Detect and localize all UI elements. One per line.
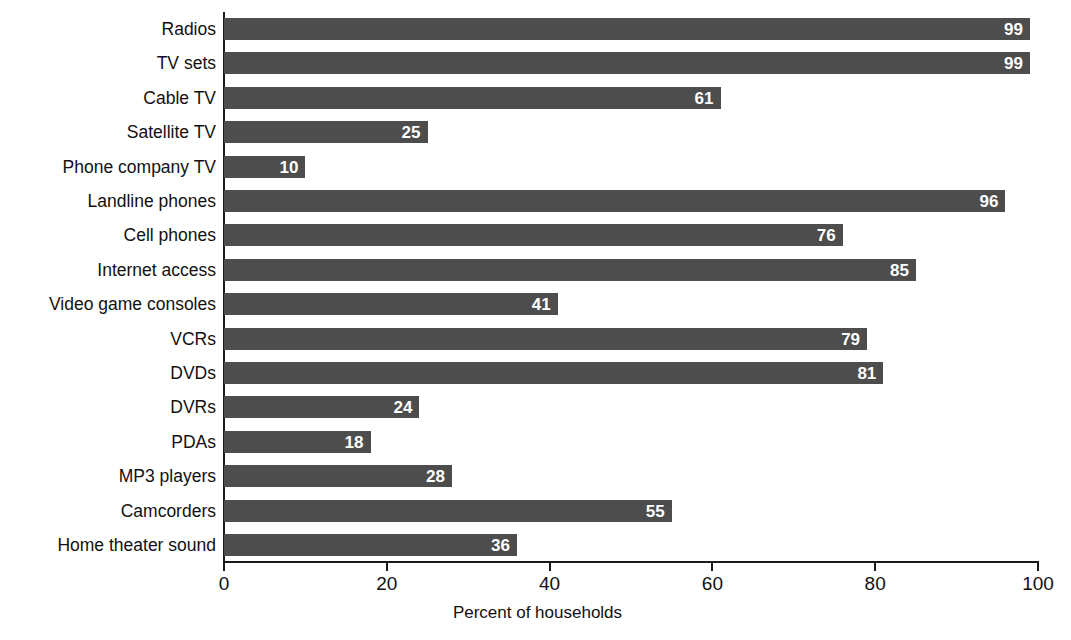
x-tick-mark (549, 561, 551, 571)
bar-value-label: 10 (279, 158, 298, 175)
bar-row: Video game consoles41 (224, 287, 1038, 321)
bar[interactable]: 99 (224, 52, 1030, 74)
category-label: Cell phones (0, 224, 216, 246)
category-label: Satellite TV (0, 121, 216, 143)
bar[interactable]: 55 (224, 500, 672, 522)
bar-row: DVDs81 (224, 356, 1038, 390)
bar-value-label: 81 (857, 365, 876, 382)
bar-value-label: 28 (426, 468, 445, 485)
bar[interactable]: 36 (224, 534, 517, 556)
bar-value-label: 85 (890, 261, 909, 278)
bar-value-label: 99 (1004, 55, 1023, 72)
plot-area: Radios99TV sets99Cable TV61Satellite TV2… (224, 12, 1038, 562)
bar-value-label: 41 (532, 296, 551, 313)
bar-row: Landline phones96 (224, 184, 1038, 218)
bar-value-label: 76 (817, 227, 836, 244)
category-label: Video game consoles (0, 293, 216, 315)
category-label: Landline phones (0, 190, 216, 212)
bar-value-label: 96 (980, 193, 999, 210)
x-tick-mark (1037, 561, 1039, 571)
bar[interactable]: 41 (224, 293, 558, 315)
x-axis-title-text: Percent of households (453, 603, 622, 623)
bar-row: Home theater sound36 (224, 528, 1038, 562)
bar-row: Cell phones76 (224, 218, 1038, 252)
category-label: Camcorders (0, 500, 216, 522)
bar-value-label: 61 (695, 89, 714, 106)
bar[interactable]: 28 (224, 465, 452, 487)
bar[interactable]: 85 (224, 259, 916, 281)
bar-value-label: 25 (402, 124, 421, 141)
category-label: DVDs (0, 362, 216, 384)
bar-row: DVRs24 (224, 390, 1038, 424)
category-label: Cable TV (0, 87, 216, 109)
bar-value-label: 79 (841, 330, 860, 347)
x-tick-mark (711, 561, 713, 571)
x-tick-label: 100 (1022, 573, 1054, 595)
category-label: Phone company TV (0, 156, 216, 178)
category-label: PDAs (0, 431, 216, 453)
bar[interactable]: 79 (224, 328, 867, 350)
x-tick-mark (386, 561, 388, 571)
bar-value-label: 24 (393, 399, 412, 416)
bar-value-label: 18 (345, 433, 364, 450)
category-label: VCRs (0, 328, 216, 350)
bar[interactable]: 25 (224, 121, 428, 143)
bar[interactable]: 76 (224, 224, 843, 246)
bar-row: Satellite TV25 (224, 115, 1038, 149)
x-tick-label: 20 (376, 573, 397, 595)
bar[interactable]: 10 (224, 156, 305, 178)
category-label: Internet access (0, 259, 216, 281)
bar-row: PDAs18 (224, 425, 1038, 459)
bar-row: Cable TV61 (224, 81, 1038, 115)
x-tick-label: 60 (702, 573, 723, 595)
category-label: MP3 players (0, 465, 216, 487)
bar[interactable]: 61 (224, 87, 721, 109)
x-tick-label: 0 (219, 573, 230, 595)
category-label: TV sets (0, 52, 216, 74)
bar-row: VCRs79 (224, 322, 1038, 356)
x-axis-title: Percent of households (0, 603, 1071, 623)
bar-row: TV sets99 (224, 46, 1038, 80)
bar-row: Internet access85 (224, 253, 1038, 287)
x-tick-mark (223, 561, 225, 571)
bar-row: MP3 players28 (224, 459, 1038, 493)
bar-row: Phone company TV10 (224, 150, 1038, 184)
bar-value-label: 99 (1004, 21, 1023, 38)
bar-row: Camcorders55 (224, 494, 1038, 528)
bar[interactable]: 81 (224, 362, 883, 384)
bar[interactable]: 24 (224, 396, 419, 418)
category-label: DVRs (0, 396, 216, 418)
category-label: Home theater sound (0, 534, 216, 556)
x-tick-label: 80 (865, 573, 886, 595)
category-label: Radios (0, 18, 216, 40)
chart-page: Radios99TV sets99Cable TV61Satellite TV2… (0, 0, 1071, 640)
bar-value-label: 55 (646, 502, 665, 519)
bar-row: Radios99 (224, 12, 1038, 46)
x-tick-mark (874, 561, 876, 571)
bar-value-label: 36 (491, 537, 510, 554)
bar[interactable]: 18 (224, 431, 371, 453)
bar[interactable]: 96 (224, 190, 1005, 212)
bar[interactable]: 99 (224, 18, 1030, 40)
x-tick-label: 40 (539, 573, 560, 595)
